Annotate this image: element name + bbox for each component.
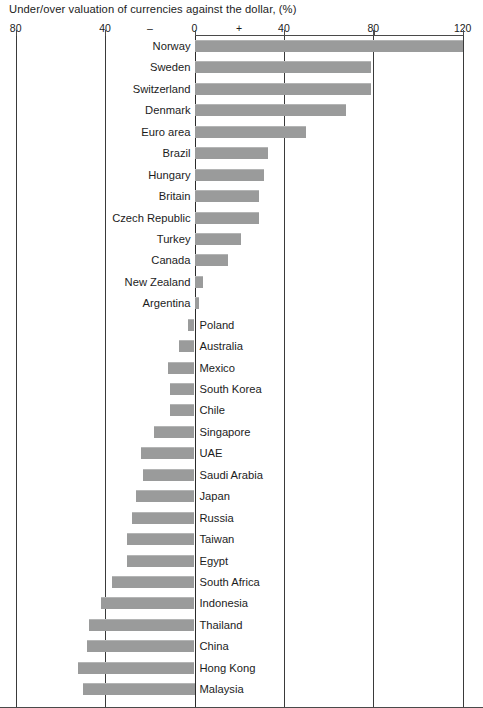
bar (195, 83, 372, 95)
bar-category-label: South Korea (200, 381, 262, 397)
chart-row: Russia (0, 508, 483, 529)
chart-row: Malaysia (0, 679, 483, 700)
bar-category-label: Canada (151, 252, 190, 268)
bar-category-label: UAE (200, 445, 223, 461)
plot-area: 8040–0+4080120 NorwaySwedenSwitzerlandDe… (0, 36, 483, 661)
bar-category-label: Chile (200, 402, 226, 418)
bar (170, 383, 195, 395)
bar-category-label: Russia (200, 510, 234, 526)
bar (112, 576, 195, 588)
bar (127, 533, 194, 545)
bar (195, 104, 347, 116)
bar-category-label: Norway (153, 38, 191, 54)
bar-category-label: Indonesia (200, 595, 249, 611)
chart-row: Chile (0, 400, 483, 421)
bar-category-label: Egypt (200, 553, 229, 569)
chart-row: Japan (0, 486, 483, 507)
bar (83, 683, 195, 695)
chart-row: Britain (0, 186, 483, 207)
chart-row: Euro area (0, 122, 483, 143)
bar-category-label: Switzerland (133, 81, 191, 97)
bar-category-label: South Africa (200, 574, 260, 590)
bar (154, 426, 194, 438)
bar (195, 190, 260, 202)
chart-row: Turkey (0, 229, 483, 250)
chart-row: Sweden (0, 57, 483, 78)
chart-row: Mexico (0, 358, 483, 379)
chart-row: New Zealand (0, 272, 483, 293)
bar-category-label: New Zealand (125, 274, 191, 290)
chart-row: Poland (0, 315, 483, 336)
chart-row: Thailand (0, 615, 483, 636)
chart-row: Canada (0, 250, 483, 271)
bar (168, 362, 195, 374)
bar (195, 126, 307, 138)
bar (195, 297, 199, 309)
chart-row: Saudi Arabia (0, 465, 483, 486)
bar-category-label: Thailand (200, 617, 243, 633)
bar-category-label: Hungary (148, 167, 190, 183)
bar-category-label: Brazil (163, 145, 191, 161)
bar (195, 276, 204, 288)
chart-row: South Korea (0, 379, 483, 400)
chart-row: South Africa (0, 572, 483, 593)
chart-row: Australia (0, 336, 483, 357)
bar (195, 212, 260, 224)
chart-row: UAE (0, 443, 483, 464)
chart-title: Under/over valuation of currencies again… (9, 3, 297, 15)
chart-row: Czech Republic (0, 208, 483, 229)
chart-row: China (0, 636, 483, 657)
bar (195, 254, 229, 266)
bar-category-label: Mexico (200, 360, 235, 376)
bar-category-label: China (200, 638, 229, 654)
bar (179, 340, 195, 352)
bar (195, 169, 264, 181)
bar (132, 512, 195, 524)
chart-row: Indonesia (0, 593, 483, 614)
chart-row: Hungary (0, 165, 483, 186)
bar (143, 469, 194, 481)
bar-category-label: Singapore (200, 424, 251, 440)
bar-category-label: Czech Republic (112, 210, 190, 226)
bar (188, 319, 195, 331)
chart-row: Egypt (0, 551, 483, 572)
chart-row: Denmark (0, 100, 483, 121)
x-axis-tick-label: + (236, 22, 242, 34)
x-axis-tick-label: – (147, 22, 153, 34)
chart-row: Argentina (0, 293, 483, 314)
bar (195, 61, 372, 73)
bar-category-label: Euro area (141, 124, 190, 140)
bar (127, 555, 194, 567)
bar-category-label: Saudi Arabia (200, 467, 263, 483)
bar-category-label: Japan (200, 488, 230, 504)
chart-row: Switzerland (0, 79, 483, 100)
chart-row: Norway (0, 36, 483, 57)
bar (87, 640, 194, 652)
chart-row: Taiwan (0, 529, 483, 550)
bar (89, 619, 194, 631)
bar (136, 490, 194, 502)
chart-row: Hong Kong (0, 658, 483, 679)
bar (195, 40, 463, 52)
bar (101, 597, 195, 609)
bar-category-label: Poland (200, 317, 235, 333)
chart-row: Singapore (0, 422, 483, 443)
bar-category-label: Argentina (143, 295, 191, 311)
bar-category-label: Hong Kong (200, 660, 256, 676)
bar-category-label: Turkey (157, 231, 191, 247)
bar-category-label: Australia (200, 338, 244, 354)
bar-category-label: Denmark (145, 102, 190, 118)
bar-category-label: Malaysia (200, 681, 244, 697)
chart-row: Brazil (0, 143, 483, 164)
bar (170, 404, 195, 416)
bar-category-label: Taiwan (200, 531, 235, 547)
bar-rows: NorwaySwedenSwitzerlandDenmarkEuro areaB… (0, 36, 483, 701)
bar (78, 662, 194, 674)
bar (195, 147, 269, 159)
bar-category-label: Britain (159, 188, 191, 204)
bar (141, 447, 195, 459)
bar (195, 233, 242, 245)
bar-category-label: Sweden (150, 59, 190, 75)
